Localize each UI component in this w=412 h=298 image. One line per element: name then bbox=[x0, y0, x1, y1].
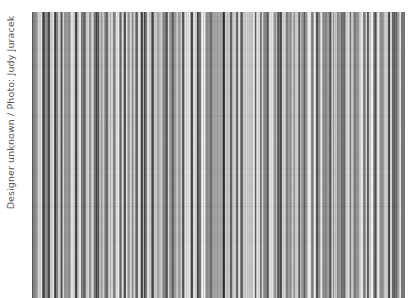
texture-noise bbox=[32, 290, 405, 291]
texture-noise bbox=[32, 16, 405, 17]
texture-noise bbox=[32, 232, 405, 233]
texture-noise bbox=[32, 91, 405, 92]
texture-noise bbox=[32, 82, 405, 83]
texture-noise bbox=[32, 152, 405, 153]
photo-credit-text: Designer unknown / Photo: Judy Juracek bbox=[6, 15, 17, 209]
texture-noise bbox=[32, 203, 405, 204]
texture-noise bbox=[32, 160, 405, 161]
texture-noise bbox=[32, 55, 405, 56]
texture-noise bbox=[32, 56, 405, 57]
textile-photo bbox=[32, 12, 405, 298]
stripe-texture bbox=[32, 12, 405, 298]
texture-noise bbox=[32, 280, 405, 281]
texture-noise bbox=[32, 223, 405, 224]
texture-noise bbox=[32, 205, 405, 206]
texture-noise bbox=[32, 251, 405, 252]
texture-noise bbox=[32, 126, 405, 127]
texture-noise bbox=[32, 241, 405, 242]
texture-noise bbox=[32, 51, 405, 52]
texture-noise bbox=[32, 35, 405, 36]
texture-noise bbox=[32, 256, 405, 257]
texture-noise bbox=[32, 238, 405, 239]
texture-noise bbox=[32, 117, 405, 118]
texture-noise bbox=[32, 140, 405, 141]
texture-noise bbox=[32, 27, 405, 28]
texture-noise bbox=[32, 41, 405, 42]
texture-noise bbox=[32, 13, 405, 14]
texture-noise bbox=[32, 219, 405, 220]
texture-noise bbox=[32, 70, 405, 71]
texture-noise bbox=[32, 176, 405, 177]
texture-noise bbox=[32, 37, 405, 38]
texture-noise bbox=[32, 206, 405, 207]
texture-noise bbox=[32, 115, 405, 116]
texture-noise bbox=[32, 128, 405, 129]
texture-noise bbox=[32, 190, 405, 191]
texture-noise bbox=[32, 57, 405, 58]
texture-noise bbox=[32, 65, 405, 66]
texture-noise bbox=[32, 116, 405, 117]
texture-noise bbox=[32, 287, 405, 288]
texture-noise bbox=[32, 118, 405, 119]
texture-noise bbox=[32, 37, 405, 38]
texture-noise bbox=[32, 284, 405, 285]
texture-noise bbox=[32, 127, 405, 128]
texture-noise bbox=[32, 243, 405, 244]
texture-noise bbox=[32, 265, 405, 266]
texture-noise bbox=[32, 281, 405, 282]
texture-noise bbox=[32, 213, 405, 214]
texture-noise bbox=[32, 274, 405, 275]
texture-noise bbox=[32, 21, 405, 22]
photo-credit: Designer unknown / Photo: Judy Juracek bbox=[2, 12, 20, 212]
texture-noise bbox=[32, 277, 405, 278]
texture-noise bbox=[32, 124, 405, 125]
texture-noise bbox=[32, 14, 405, 15]
texture-noise bbox=[32, 137, 405, 138]
texture-noise bbox=[32, 28, 405, 29]
texture-noise bbox=[32, 169, 405, 170]
texture-noise bbox=[32, 48, 405, 49]
